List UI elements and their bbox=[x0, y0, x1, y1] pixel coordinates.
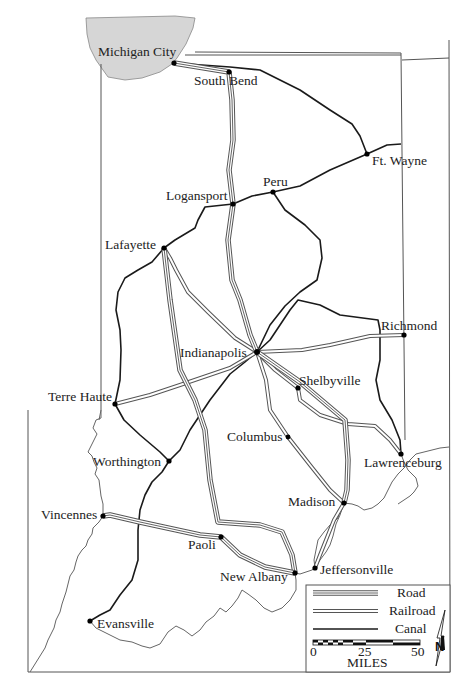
legend-road-label: Road bbox=[397, 585, 426, 600]
label-jeffersonville: Jeffersonville bbox=[320, 562, 393, 577]
city-markers bbox=[87, 60, 406, 623]
label-south-bend: South Bend bbox=[194, 73, 258, 88]
railroads bbox=[115, 248, 404, 568]
legend-canal-label: Canal bbox=[395, 621, 427, 636]
label-lafayette: Lafayette bbox=[105, 237, 156, 252]
label-ft-wayne: Ft. Wayne bbox=[372, 153, 427, 168]
scale-unit: MILES bbox=[347, 655, 388, 670]
label-terre-haute: Terre Haute bbox=[48, 389, 112, 404]
label-worthington: Worthington bbox=[93, 454, 161, 469]
legend-railroad-label: Railroad bbox=[389, 603, 436, 618]
label-new-albany: New Albany bbox=[220, 569, 288, 584]
label-peru: Peru bbox=[263, 174, 288, 189]
label-madison: Madison bbox=[288, 494, 336, 509]
label-richmond: Richmond bbox=[381, 318, 437, 333]
label-columbus: Columbus bbox=[227, 429, 283, 444]
label-shelbyville: Shelbyville bbox=[299, 373, 361, 388]
legend: Road Railroad Canal 0 25 50 MILES bbox=[306, 585, 450, 672]
label-lawrenceburg: Lawrenceburg bbox=[364, 455, 442, 470]
label-paoli: Paoli bbox=[188, 537, 216, 552]
canals bbox=[90, 63, 401, 621]
indiana-map: Michigan City South Bend Ft. Wayne Peru … bbox=[0, 0, 467, 689]
label-michigan-city: Michigan City bbox=[98, 44, 177, 59]
label-vincennes: Vincennes bbox=[41, 507, 97, 522]
north-label: N bbox=[435, 639, 444, 654]
label-evansville: Evansville bbox=[97, 616, 154, 631]
label-logansport: Logansport bbox=[166, 188, 228, 203]
scale-tick-50: 50 bbox=[411, 644, 425, 659]
label-indianapolis: Indianapolis bbox=[180, 345, 247, 360]
scale-tick-0: 0 bbox=[310, 644, 317, 659]
